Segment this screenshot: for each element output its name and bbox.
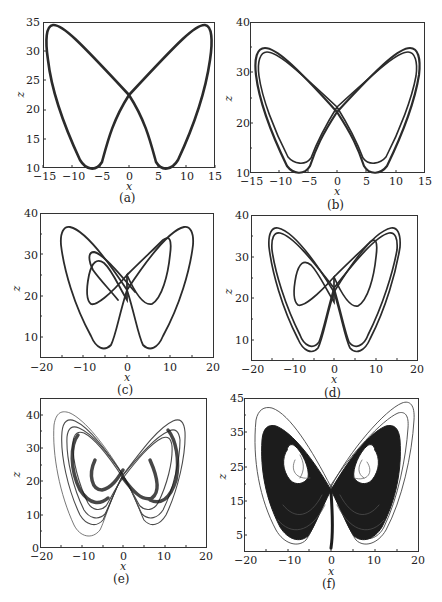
xtick-f-20: 20 bbox=[411, 555, 425, 566]
xtick-f-m10: −10 bbox=[278, 555, 301, 566]
xtick-f-m20: −20 bbox=[234, 555, 257, 566]
trajectory-f bbox=[0, 0, 442, 602]
ylabel-f: z bbox=[216, 474, 229, 480]
ytick-f-35: 35 bbox=[230, 427, 244, 438]
caption-f: (f) bbox=[322, 577, 336, 591]
ytick-f-5: 5 bbox=[236, 530, 243, 541]
xtick-f-10: 10 bbox=[367, 555, 381, 566]
ytick-f-25: 25 bbox=[230, 462, 244, 473]
ytick-f-15: 15 bbox=[230, 496, 244, 507]
ytick-f-45: 45 bbox=[230, 393, 244, 404]
